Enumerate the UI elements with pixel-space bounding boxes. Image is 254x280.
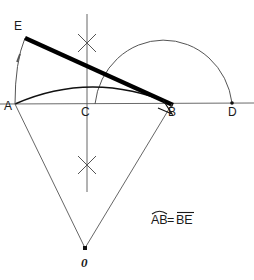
vertex-dot-O xyxy=(83,246,87,250)
point-label-B: B xyxy=(168,105,176,119)
annotation-text-equals: = xyxy=(167,213,174,227)
point-label-C: C xyxy=(81,105,90,119)
point-label-D: D xyxy=(228,105,237,119)
geometry-figure: A B C D E 0 AB = BE xyxy=(0,0,254,280)
point-label-E: E xyxy=(14,19,22,33)
annotation-text-seg-be: BE xyxy=(176,213,193,227)
chord-EB xyxy=(25,38,173,105)
baseline-AD xyxy=(0,103,254,104)
annotation-text-arc-ab: AB xyxy=(151,213,168,227)
arc-A-to-E xyxy=(15,38,25,104)
radius-AO xyxy=(15,104,85,248)
construction-canvas: A B C D E 0 AB = BE xyxy=(0,0,254,280)
point-label-O: 0 xyxy=(81,255,88,270)
point-label-A: A xyxy=(4,99,12,113)
equality-annotation: AB = BE xyxy=(151,211,194,227)
semicircle-arc-AD xyxy=(95,40,232,104)
